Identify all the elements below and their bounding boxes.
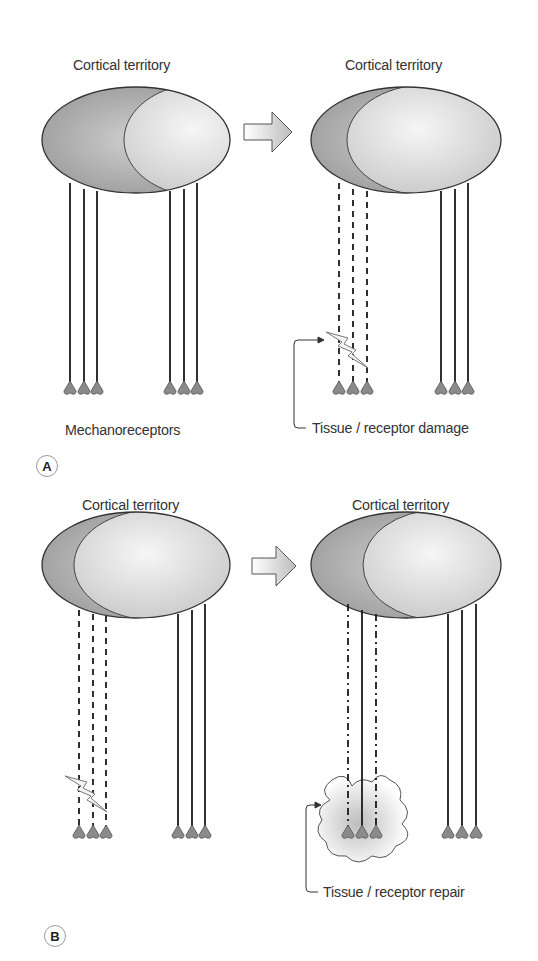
mechanoreceptors-label: Mechanoreceptors <box>65 421 180 439</box>
panel-b-badge: B <box>44 925 66 947</box>
panel-b-left-receptors <box>73 825 211 838</box>
diagram-canvas <box>0 0 538 961</box>
lightning-bolt-icon-a <box>326 332 368 368</box>
panel-a-left-receptors <box>64 381 203 394</box>
panel-b-right-receptors <box>342 825 482 838</box>
damage-callout-label: Tissue / receptor damage <box>312 419 469 437</box>
damage-callout-connector <box>294 337 324 428</box>
panel-b-right-cortex <box>311 510 513 620</box>
arrow-b-icon <box>252 546 296 586</box>
panel-b-left-fibers-intact <box>178 604 205 828</box>
panel-a-right-receptors <box>333 381 474 394</box>
panel-b-right-fibers-intact <box>448 604 476 828</box>
panel-a-badge: A <box>36 455 58 477</box>
panel-a-right-cortex <box>311 85 503 195</box>
repair-callout-label: Tissue / receptor repair <box>323 883 465 901</box>
panel-a-left-cortex <box>42 84 276 196</box>
panel-a-right-title: Cortical territory <box>345 56 442 74</box>
lightning-bolt-icon-b <box>65 776 107 812</box>
panel-b-left-cortex <box>42 510 234 620</box>
arrow-a-icon <box>244 112 292 152</box>
panel-b-right-title: Cortical territory <box>352 496 449 514</box>
panel-a-right-fibers-damaged <box>339 183 367 384</box>
repair-callout-connector <box>306 802 321 892</box>
panel-b-left-title: Cortical territory <box>82 496 179 514</box>
panel-a-left-title: Cortical territory <box>73 56 170 74</box>
panel-a-right-fibers-intact <box>441 183 468 384</box>
panel-a-left-fibers <box>70 183 197 384</box>
